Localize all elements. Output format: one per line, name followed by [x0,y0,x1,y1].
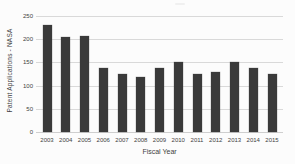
plot-area [36,16,283,132]
bar-2008 [136,77,145,132]
bar-2014 [249,68,258,132]
x-tick-label-2003: 2003 [40,137,53,143]
bar-2015 [268,74,277,132]
patent-applications-bar-chart: Patent Applications - NASA Fiscal Year 0… [0,0,295,164]
x-tick-label-2015: 2015 [265,137,278,143]
bar-2005 [80,36,89,133]
bar-2009 [155,68,164,132]
bar-2003 [43,25,52,132]
x-tick-label-2010: 2010 [172,137,185,143]
x-tick-label-2009: 2009 [153,137,166,143]
y-tick-label: 250 [23,13,33,19]
y-tick-label: 0 [30,129,33,135]
x-tick-label-2006: 2006 [97,137,110,143]
x-tick-label-2012: 2012 [209,137,222,143]
x-tick-label-2014: 2014 [247,137,260,143]
x-tick-label-2011: 2011 [191,137,204,143]
y-tick-label: 50 [26,106,33,112]
gridline-y-0 [36,132,283,133]
x-tick-label-2007: 2007 [115,137,128,143]
gridline-y-200 [36,39,283,40]
scan-artifact [175,3,185,5]
x-tick-label-2004: 2004 [59,137,72,143]
bar-2012 [211,72,220,132]
bar-2004 [61,37,70,132]
bar-2013 [230,62,239,132]
y-tick-label: 200 [23,36,33,42]
x-tick-label-2005: 2005 [78,137,91,143]
gridline-y-150 [36,62,283,63]
bar-2006 [99,68,108,132]
x-tick-label-2008: 2008 [134,137,147,143]
x-tick-label-2013: 2013 [228,137,241,143]
y-tick-label: 100 [23,83,33,89]
y-tick-label: 150 [23,59,33,65]
x-axis-title: Fiscal Year [36,148,283,155]
bar-2011 [193,74,202,132]
bar-2010 [174,62,183,132]
y-axis-title: Patent Applications - NASA [6,26,13,116]
bar-2007 [118,74,127,132]
gridline-y-250 [36,16,283,17]
